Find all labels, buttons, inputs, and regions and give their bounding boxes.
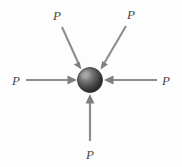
force-diagram-figure: P P P P P (0, 0, 182, 167)
force-label-upper-right: P (126, 7, 135, 22)
arrow-head-upper-left (74, 62, 82, 70)
force-diagram-canvas: P P P P P (0, 0, 182, 167)
force-arrow-left: P (11, 73, 77, 88)
force-arrow-right: P (104, 73, 170, 88)
force-label-bottom: P (85, 147, 94, 162)
force-arrow-upper-left: P (52, 8, 81, 70)
arrow-head-right (104, 76, 114, 85)
force-label-upper-left: P (52, 8, 61, 23)
arrow-head-left (68, 76, 78, 85)
particle-sphere (78, 68, 103, 93)
force-arrow-upper-right: P (101, 7, 136, 70)
arrow-head-upper-right (101, 61, 108, 69)
force-arrow-bottom: P (85, 94, 94, 162)
force-label-left: P (11, 73, 20, 88)
arrow-head-bottom (86, 94, 95, 104)
arrow-shaft-upper-left (62, 27, 79, 64)
sphere-body (78, 68, 103, 93)
force-label-right: P (161, 73, 170, 88)
arrow-shaft-upper-right (104, 26, 126, 64)
